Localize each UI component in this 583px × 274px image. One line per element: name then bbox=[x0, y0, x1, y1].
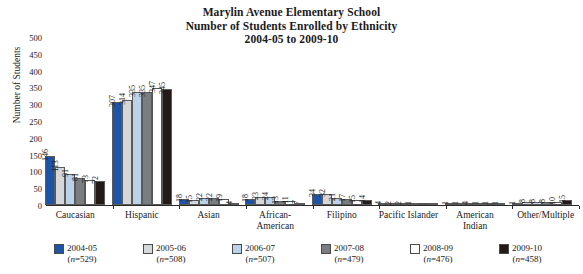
bar-value-label: 17 bbox=[339, 194, 347, 202]
bar-slot: 15 bbox=[189, 38, 199, 205]
y-tick-label: 300 bbox=[14, 101, 42, 110]
bar-value-label: 335 bbox=[139, 85, 147, 97]
bar-slot: 8 bbox=[542, 38, 552, 205]
bar-slot: 32 bbox=[322, 38, 332, 205]
bar-group: 18232413117 bbox=[245, 38, 305, 205]
bar-slot: 18 bbox=[245, 38, 255, 205]
bar-slot: 1 bbox=[495, 38, 505, 205]
bar bbox=[132, 92, 142, 205]
legend-item[interactable]: 2009-10(n=458) bbox=[499, 243, 542, 264]
bar-slot bbox=[428, 38, 438, 205]
legend-sample-size: (n=508) bbox=[156, 254, 186, 265]
bar-slot: 4 bbox=[229, 38, 239, 205]
bar-value-label: 81 bbox=[72, 173, 80, 181]
legend-sample-size: (n=529) bbox=[67, 254, 97, 265]
bar-slot: 34 bbox=[312, 38, 322, 205]
legend-color-swatch bbox=[232, 244, 242, 254]
bar-value-label: 15 bbox=[559, 195, 567, 203]
bar-value-label: 73 bbox=[82, 175, 90, 183]
bar bbox=[85, 180, 95, 205]
bar-value-label: 1 bbox=[492, 201, 500, 205]
bar-value-label: 13 bbox=[272, 196, 280, 204]
bar-slot: 4 bbox=[465, 38, 475, 205]
bar-slot: 8 bbox=[532, 38, 542, 205]
bar-group: 307314335335347345 bbox=[112, 38, 172, 205]
x-axis-category-label: Pacific Islander bbox=[368, 210, 449, 221]
bar-slot: 7 bbox=[295, 38, 305, 205]
bar-group: 4221 bbox=[378, 38, 438, 205]
legend-label: 2008-09(n=476) bbox=[423, 243, 453, 264]
legend-sample-size: (n=458) bbox=[512, 254, 542, 265]
legend-label: 2009-10(n=458) bbox=[512, 243, 542, 264]
y-tick-label: 150 bbox=[14, 151, 42, 160]
y-tick-label: 350 bbox=[14, 84, 42, 93]
y-tick-label: 100 bbox=[14, 168, 42, 177]
bar-value-label: 24 bbox=[262, 192, 270, 200]
bar-value-label: 18 bbox=[176, 194, 184, 202]
bar-slot: 335 bbox=[132, 38, 142, 205]
legend-item[interactable]: 2007-08(n=479) bbox=[321, 243, 364, 264]
bar-value-label: 14 bbox=[359, 195, 367, 203]
bar-value-label: 72 bbox=[92, 176, 100, 184]
chart-container: Marylin Avenue Elementary School Number … bbox=[0, 0, 583, 274]
bar-group: 18881015 bbox=[512, 38, 572, 205]
bar-slot: 17 bbox=[342, 38, 352, 205]
legend-color-swatch bbox=[410, 244, 420, 254]
bar-value-label: 146 bbox=[42, 149, 50, 161]
bar-slot: 1 bbox=[475, 38, 485, 205]
bar-value-label: 91 bbox=[62, 169, 70, 177]
bar-value-label: 8 bbox=[539, 199, 547, 203]
bar-slot: 146 bbox=[45, 38, 55, 205]
bar-value-label: 113 bbox=[52, 160, 60, 172]
y-tick-label: 400 bbox=[14, 67, 42, 76]
bar-value-label: 32 bbox=[319, 189, 327, 197]
legend-item[interactable]: 2006-07(n=507) bbox=[232, 243, 275, 264]
x-axis-category-label: African-American bbox=[242, 210, 309, 232]
bar-slot: 335 bbox=[142, 38, 152, 205]
legend-color-swatch bbox=[54, 244, 64, 254]
legend-item[interactable]: 2005-06(n=508) bbox=[143, 243, 186, 264]
bar bbox=[418, 203, 428, 205]
x-tick-mark bbox=[313, 206, 314, 209]
x-tick-mark bbox=[379, 206, 380, 209]
bar-value-label: 4 bbox=[462, 201, 470, 205]
bar-slot: 21 bbox=[332, 38, 342, 205]
bar-slot: 2 bbox=[398, 38, 408, 205]
x-tick-mark bbox=[246, 206, 247, 209]
x-tick-mark bbox=[446, 206, 447, 209]
bar-value-label: 2 bbox=[395, 201, 403, 205]
legend-color-swatch bbox=[143, 244, 153, 254]
chart-legend: 2004-05(n=529)2005-06(n=508)2006-07(n=50… bbox=[46, 243, 579, 273]
bar bbox=[152, 88, 162, 205]
bar-slot: 72 bbox=[95, 38, 105, 205]
bar-value-label: 7 bbox=[292, 200, 300, 204]
bar-value-label: 22 bbox=[206, 193, 214, 201]
bar-slot: 1 bbox=[512, 38, 522, 205]
plot-area: 1461139181737230731433533534734518152222… bbox=[46, 38, 579, 206]
bar-slot: 13 bbox=[275, 38, 285, 205]
bar-value-label: 34 bbox=[309, 189, 317, 197]
bar-value-label: 314 bbox=[119, 93, 127, 105]
bar-value-label: 345 bbox=[159, 82, 167, 94]
y-tick-label: 500 bbox=[14, 34, 42, 43]
bar-slot: 347 bbox=[152, 38, 162, 205]
bar-slot: 19 bbox=[219, 38, 229, 205]
legend-item[interactable]: 2008-09(n=476) bbox=[410, 243, 453, 264]
bar-slot: 14 bbox=[362, 38, 372, 205]
bar bbox=[112, 102, 122, 205]
bar-value-label: 18 bbox=[242, 194, 250, 202]
legend-sample-size: (n=507) bbox=[245, 254, 275, 265]
legend-sample-size: (n=476) bbox=[423, 254, 453, 265]
legend-color-swatch bbox=[321, 244, 331, 254]
bar-slot: 1 bbox=[485, 38, 495, 205]
bar-slot: 22 bbox=[209, 38, 219, 205]
bar-slot: 15 bbox=[352, 38, 362, 205]
legend-item[interactable]: 2004-05(n=529) bbox=[54, 243, 97, 264]
x-tick-mark bbox=[179, 206, 180, 209]
title-line-1: Marylin Avenue Elementary School bbox=[0, 6, 583, 20]
x-tick-mark bbox=[579, 206, 580, 209]
legend-sample-size: (n=479) bbox=[334, 254, 364, 265]
y-tick-label: 250 bbox=[14, 118, 42, 127]
x-axis-category-label: Other/Multiple bbox=[506, 210, 583, 221]
bar-value-label: 1 bbox=[482, 201, 490, 205]
